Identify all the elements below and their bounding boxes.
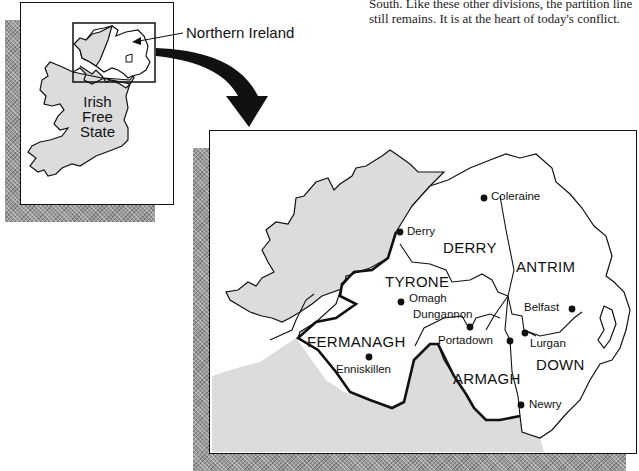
portadown-dot [507,338,514,345]
town-label-enniskillen: Enniskillen [336,363,391,375]
lurgan-dot [522,330,529,337]
enniskillen-dot [366,354,373,361]
town-label-omagh: Omagh [409,292,447,304]
omagh-dot [398,299,405,306]
town-label-portadown: Portadown [438,334,493,346]
county-label-tyrone: TYRONE [385,273,449,290]
town-label-derry: Derry [407,225,435,237]
county-label-armagh: ARMAGH [453,370,521,387]
dungannon-dot [467,324,474,331]
county-label-down: DOWN [536,356,585,373]
town-label-newry: Newry [529,398,562,410]
town-label-lurgan: Lurgan [530,337,566,349]
newry-dot [518,402,525,409]
derry-dot [397,229,404,236]
county-label-derry: DERRY [443,239,497,256]
belfast-dot [569,306,576,313]
coleraine-dot [481,195,488,202]
town-label-coleraine: Coleraine [491,190,540,202]
town-label-belfast: Belfast [524,301,559,313]
town-label-dungannon: Dungannon [413,308,472,320]
county-label-antrim: ANTRIM [516,258,575,275]
county-label-fermanagh: FERMANAGH [307,333,406,350]
